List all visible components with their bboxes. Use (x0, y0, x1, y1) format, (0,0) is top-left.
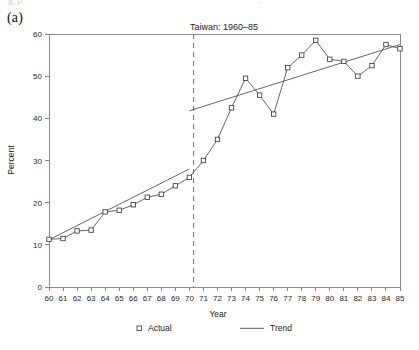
x-tick-label: 80 (325, 294, 334, 303)
legend-actual-square-icon (137, 326, 142, 331)
y-tick-label: 50 (33, 72, 42, 81)
x-tick-label: 69 (171, 294, 180, 303)
data-point-marker (187, 175, 191, 179)
x-tick-label: 67 (143, 294, 152, 303)
y-tick-label: 0 (38, 283, 43, 292)
data-point-marker (117, 208, 121, 212)
x-tick-label: 72 (213, 294, 222, 303)
y-tick-label: 40 (33, 114, 42, 123)
data-point-marker (300, 53, 304, 57)
x-tick-label: 78 (297, 294, 306, 303)
x-tick-label: 82 (353, 294, 362, 303)
data-point-marker (243, 76, 247, 80)
x-tick-label: 70 (185, 294, 194, 303)
data-point-marker (328, 57, 332, 61)
chart-figure: Taiwan: 1960–85 0102030405060 6061626364… (0, 0, 419, 350)
legend-trend-label: Trend (270, 323, 292, 333)
data-point-marker (370, 63, 374, 67)
data-point-marker (173, 184, 177, 188)
trend-line-segment-1 (49, 169, 189, 240)
x-axis-ticks: 6061626364656667686970717273747576777879… (45, 287, 405, 303)
x-tick-label: 85 (396, 294, 405, 303)
x-tick-label: 73 (227, 294, 236, 303)
y-tick-label: 60 (33, 30, 42, 39)
x-tick-label: 71 (199, 294, 208, 303)
x-tick-label: 65 (115, 294, 124, 303)
data-point-marker (271, 112, 275, 116)
x-tick-label: 77 (283, 294, 292, 303)
actual-series-line (49, 40, 400, 239)
actual-series-markers (47, 38, 402, 241)
x-tick-label: 60 (45, 294, 54, 303)
chart-legend: Actual Trend (137, 323, 292, 333)
data-point-marker (131, 203, 135, 207)
y-axis-title: Percent (6, 145, 16, 175)
x-tick-label: 63 (87, 294, 96, 303)
data-point-marker (398, 47, 402, 51)
x-axis-title: Year (209, 309, 226, 319)
data-point-marker (285, 66, 289, 70)
data-point-marker (145, 195, 149, 199)
x-tick-label: 83 (367, 294, 376, 303)
x-tick-label: 84 (382, 294, 391, 303)
data-point-marker (215, 137, 219, 141)
data-point-marker (257, 93, 261, 97)
data-point-marker (229, 106, 233, 110)
chart-axes (49, 34, 400, 287)
data-point-marker (342, 59, 346, 63)
data-point-marker (159, 192, 163, 196)
x-tick-label: 62 (73, 294, 82, 303)
data-point-marker (89, 228, 93, 232)
data-point-marker (384, 42, 388, 46)
y-axis-ticks: 0102030405060 (33, 30, 49, 292)
legend-actual-label: Actual (148, 323, 172, 333)
chart-title: Taiwan: 1960–85 (190, 22, 258, 32)
trend-line-segment-2 (189, 45, 400, 111)
data-point-marker (47, 237, 51, 241)
chart-canvas: Taiwan: 1960–85 0102030405060 6061626364… (0, 0, 419, 350)
x-tick-label: 79 (311, 294, 320, 303)
data-point-marker (201, 158, 205, 162)
x-tick-label: 64 (101, 294, 110, 303)
data-point-marker (314, 38, 318, 42)
data-point-marker (356, 74, 360, 78)
data-point-marker (75, 229, 79, 233)
y-tick-label: 10 (33, 241, 42, 250)
x-tick-label: 81 (339, 294, 348, 303)
x-tick-label: 66 (129, 294, 138, 303)
x-tick-label: 68 (157, 294, 166, 303)
x-tick-label: 76 (269, 294, 278, 303)
data-point-marker (61, 236, 65, 240)
y-tick-label: 20 (33, 199, 42, 208)
data-point-marker (103, 210, 107, 214)
x-tick-label: 61 (59, 294, 68, 303)
y-tick-label: 30 (33, 157, 42, 166)
x-tick-label: 74 (241, 294, 250, 303)
x-tick-label: 75 (255, 294, 264, 303)
